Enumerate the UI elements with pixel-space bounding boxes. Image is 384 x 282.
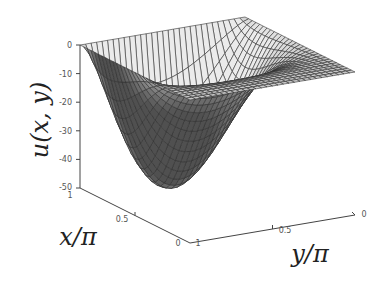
z-tick-10: -10 — [59, 70, 72, 79]
z-axis-label: u(x, y) — [26, 82, 54, 159]
x-tick-05: 0.5 — [116, 215, 129, 224]
x-tick-1: 1 — [67, 191, 72, 200]
y-tick-0: 0 — [361, 210, 366, 219]
z-tick-40: -40 — [59, 155, 72, 164]
x-axis-label: x/π — [59, 223, 98, 251]
y-tick-05: 0.5 — [279, 226, 292, 235]
surface-plot: 0 -10 -20 -30 -40 -50 1 0.5 0 1 0.5 0 u(… — [0, 0, 384, 282]
z-tick-20: -20 — [59, 98, 72, 107]
x-tick-0: 0 — [175, 239, 180, 248]
z-tick-0: 0 — [67, 41, 72, 50]
y-axis-label: y/π — [290, 240, 330, 268]
y-tick-1: 1 — [195, 239, 200, 248]
surface-mesh — [80, 17, 355, 188]
z-tick-30: -30 — [59, 127, 72, 136]
